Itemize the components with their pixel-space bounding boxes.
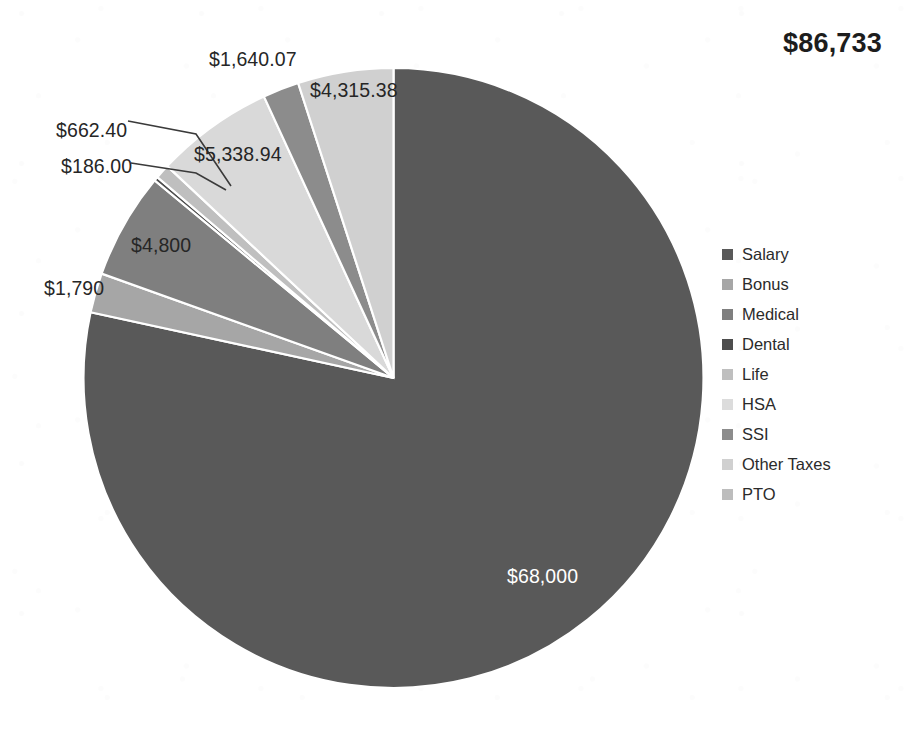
legend: SalaryBonusMedicalDentalLifeHSASSIOther … — [722, 246, 831, 503]
legend-item-pto[interactable]: PTO — [722, 486, 831, 503]
legend-swatch-icon — [722, 369, 733, 380]
legend-item-life[interactable]: Life — [722, 366, 831, 383]
legend-item-medical[interactable]: Medical — [722, 306, 831, 323]
legend-item-ssi[interactable]: SSI — [722, 426, 831, 443]
legend-swatch-icon — [722, 279, 733, 290]
data-label: $186.00 — [61, 155, 132, 178]
legend-item-label: Medical — [742, 306, 799, 323]
legend-swatch-icon — [722, 309, 733, 320]
data-label: $4,800 — [131, 234, 191, 257]
data-label: $4,315.38 — [310, 79, 398, 102]
pie-slice-group — [83, 68, 703, 688]
legend-item-label: SSI — [742, 426, 769, 443]
legend-item-label: Other Taxes — [742, 456, 831, 473]
legend-item-bonus[interactable]: Bonus — [722, 276, 831, 293]
legend-item-label: Dental — [742, 336, 790, 353]
legend-swatch-icon — [722, 489, 733, 500]
legend-item-label: PTO — [742, 486, 776, 503]
data-label: $662.40 — [56, 119, 127, 142]
legend-item-label: Bonus — [742, 276, 789, 293]
legend-swatch-icon — [722, 459, 733, 470]
data-label: $5,338.94 — [194, 143, 282, 166]
legend-item-label: Life — [742, 366, 769, 383]
legend-swatch-icon — [722, 429, 733, 440]
legend-item-other-taxes[interactable]: Other Taxes — [722, 456, 831, 473]
legend-item-label: HSA — [742, 396, 776, 413]
legend-item-label: Salary — [742, 246, 789, 263]
legend-swatch-icon — [722, 249, 733, 260]
legend-item-salary[interactable]: Salary — [722, 246, 831, 263]
pie-chart-figure: $86,733 $1,640.07$4,315.38$662.40$5,338.… — [0, 0, 906, 743]
legend-swatch-icon — [722, 399, 733, 410]
legend-swatch-icon — [722, 339, 733, 350]
data-label: $1,640.07 — [209, 48, 297, 71]
legend-item-dental[interactable]: Dental — [722, 336, 831, 353]
legend-item-hsa[interactable]: HSA — [722, 396, 831, 413]
data-label: $68,000 — [507, 565, 578, 588]
data-label: $1,790 — [44, 277, 104, 300]
